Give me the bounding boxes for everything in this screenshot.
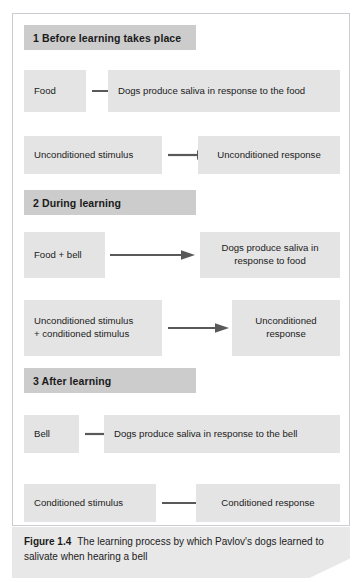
source-box-label: Unconditioned stimulus + conditioned sti…	[34, 315, 133, 340]
target-box-label: Conditioned response	[221, 497, 314, 510]
source-box-bell: Bell	[24, 415, 79, 453]
source-box-conditioned-stimulus: Conditioned stimulus	[24, 484, 156, 522]
source-box-unconditioned-plus-conditioned: Unconditioned stimulus + conditioned sti…	[24, 300, 162, 356]
arrow-right-icon	[168, 322, 230, 334]
source-box-label: Conditioned stimulus	[34, 497, 123, 510]
target-box-label: Unconditioned response	[217, 149, 320, 162]
target-box-label: Dogs produce saliva in response to food	[221, 242, 318, 267]
source-box-label: Unconditioned stimulus	[34, 149, 133, 162]
target-box-salivate-food-2: Dogs produce saliva in response to food	[200, 232, 340, 278]
target-box-unconditioned-response: Unconditioned response	[198, 136, 340, 174]
caption-label: Figure 1.4	[24, 536, 71, 547]
target-box-label: Unconditioned response	[255, 315, 316, 340]
arrow-right-icon	[110, 249, 196, 261]
section-header-2: 2 During learning	[24, 190, 196, 215]
target-box-salivate-bell: Dogs produce saliva in response to the b…	[104, 415, 340, 453]
section-header-1: 1 Before learning takes place	[24, 25, 196, 50]
target-box-conditioned-response: Conditioned response	[196, 484, 340, 522]
caption-text-line: Figure 1.4The learning process by which …	[24, 535, 338, 564]
source-box-food: Food	[24, 70, 86, 112]
target-box-unconditioned-response-2: Unconditioned response	[232, 300, 340, 356]
source-box-unconditioned-stimulus: Unconditioned stimulus	[24, 136, 162, 174]
section-header-3: 3 After learning	[24, 368, 196, 393]
source-box-label: Bell	[34, 428, 50, 441]
source-box-label: Food + bell	[34, 249, 82, 262]
target-box-label: Dogs produce saliva in response to the f…	[118, 85, 305, 98]
figure-container: 1 Before learning takes place Food Dogs …	[0, 0, 364, 582]
figure-caption: Figure 1.4The learning process by which …	[12, 527, 350, 578]
target-box-label: Dogs produce saliva in response to the b…	[114, 428, 297, 441]
target-box-salivate-food: Dogs produce saliva in response to the f…	[108, 70, 340, 112]
source-box-food-bell: Food + bell	[24, 232, 105, 278]
source-box-label: Food	[34, 85, 56, 98]
